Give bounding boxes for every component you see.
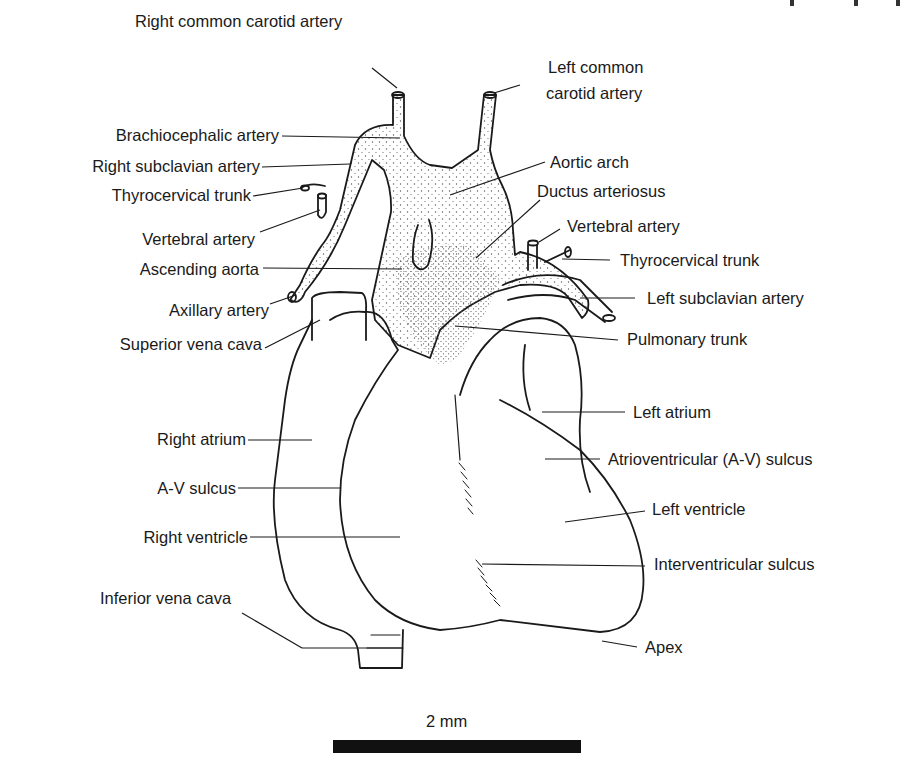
scale-bar bbox=[333, 740, 581, 753]
label-aortic-arch: Aortic arch bbox=[550, 153, 629, 172]
label-atrioventricular-sulcus: Atrioventricular (A-V) sulcus bbox=[608, 450, 812, 469]
right-atrium-outline bbox=[274, 320, 403, 668]
label-apex: Apex bbox=[645, 638, 683, 657]
label-left-atrium: Left atrium bbox=[633, 403, 711, 422]
label-left-subclavian-artery: Left subclavian artery bbox=[647, 289, 804, 308]
label-brachiocephalic-artery: Brachiocephalic artery bbox=[116, 126, 279, 145]
label-right-common-carotid-artery: Right common carotid artery bbox=[135, 12, 342, 31]
label-left-common-carotid-line1: Left common bbox=[548, 58, 643, 77]
label-ductus-arteriosus: Ductus arteriosus bbox=[537, 182, 665, 201]
label-right-atrium: Right atrium bbox=[157, 430, 246, 449]
label-axillary-artery: Axillary artery bbox=[169, 301, 269, 320]
heart-diagram: Right common carotid artery Left common … bbox=[0, 0, 909, 781]
label-vertebral-artery-left: Vertebral artery bbox=[567, 217, 680, 236]
interventricular-hatching bbox=[459, 463, 500, 606]
heart-illustration bbox=[0, 0, 909, 781]
label-ascending-aorta: Ascending aorta bbox=[140, 260, 259, 279]
label-vertebral-artery-right: Vertebral artery bbox=[142, 230, 255, 249]
label-inferior-vena-cava: Inferior vena cava bbox=[100, 589, 231, 608]
label-av-sulcus-right: A-V sulcus bbox=[157, 479, 236, 498]
label-superior-vena-cava: Superior vena cava bbox=[120, 335, 262, 354]
right-ventricle-outline bbox=[330, 312, 643, 632]
label-interventricular-sulcus: Interventricular sulcus bbox=[654, 555, 814, 574]
label-thyrocervical-trunk-right: Thyrocervical trunk bbox=[112, 186, 251, 205]
scale-bar-label: 2 mm bbox=[426, 712, 467, 731]
label-pulmonary-trunk: Pulmonary trunk bbox=[627, 330, 747, 349]
label-thyrocervical-trunk-left: Thyrocervical trunk bbox=[620, 251, 759, 270]
label-right-ventricle: Right ventricle bbox=[143, 528, 248, 547]
label-left-ventricle: Left ventricle bbox=[652, 500, 746, 519]
label-right-subclavian-artery: Right subclavian artery bbox=[92, 157, 260, 176]
label-left-common-carotid-line2: carotid artery bbox=[546, 84, 642, 103]
